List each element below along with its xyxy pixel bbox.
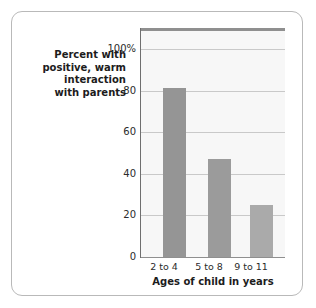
- x-tick-label-9-to-11: 9 to 11: [226, 261, 276, 272]
- bar-9-to-11: [250, 205, 273, 257]
- y-tick-labels: 100% 80 60 40 20 0: [96, 0, 136, 308]
- chart-figure: 100% 80 60 40 20 0 2 to 4 5 to 8 9 to 11…: [0, 0, 316, 308]
- bar-group: [141, 28, 285, 257]
- y-axis-title: Percent with positive, warm interaction …: [22, 49, 126, 99]
- y-tick-20: 20: [98, 210, 136, 220]
- x-axis-title: Ages of child in years: [141, 276, 285, 288]
- x-axis-line: [141, 257, 285, 258]
- y-axis-title-line-2: positive, warm: [22, 62, 126, 75]
- bar-2-to-4: [163, 88, 186, 257]
- y-tick-60: 60: [98, 127, 136, 137]
- y-axis-title-line-4: with parents: [22, 87, 126, 100]
- y-axis-title-line-3: interaction: [22, 74, 126, 87]
- y-tick-0: 0: [98, 252, 136, 262]
- bar-5-to-8: [208, 159, 231, 257]
- y-axis-title-line-1: Percent with: [22, 49, 126, 62]
- y-tick-40: 40: [98, 169, 136, 179]
- x-tick-label-2-to-4: 2 to 4: [139, 261, 189, 272]
